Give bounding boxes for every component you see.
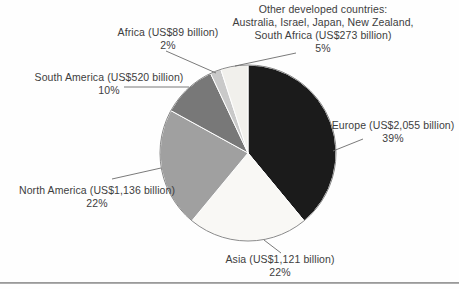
label-north-america: North America (US$1,136 billion) 22% (19, 184, 175, 210)
label-europe-pct: 39% (332, 132, 455, 145)
label-other-developed-line1: Other developed countries: (232, 3, 413, 16)
label-asia: Asia (US$1,121 billion) 22% (225, 253, 334, 279)
label-africa-text: Africa (US$89 billion) (118, 26, 219, 39)
leader-line-africa (166, 51, 216, 73)
label-other-developed-line3: South Africa (US$273 billion) (232, 29, 413, 42)
pie-chart-figure: Other developed countries: Australia, Is… (0, 0, 459, 289)
pie-slices (160, 65, 336, 241)
label-south-america-text: South America (US$520 billion) (35, 71, 184, 84)
label-africa: Africa (US$89 billion) 2% (118, 26, 219, 52)
label-north-america-text: North America (US$1,136 billion) (19, 184, 175, 197)
label-south-america-pct: 10% (35, 84, 184, 97)
label-europe: Europe (US$2,055 billion) 39% (332, 119, 455, 145)
leader-line-north-america (112, 168, 161, 179)
label-africa-pct: 2% (118, 39, 219, 52)
label-asia-pct: 22% (225, 266, 334, 279)
label-europe-text: Europe (US$2,055 billion) (332, 119, 455, 132)
label-south-america: South America (US$520 billion) 10% (35, 71, 184, 97)
leader-line-asia (264, 240, 281, 253)
label-other-developed-pct: 5% (232, 42, 413, 55)
label-other-developed-line2: Australia, Israel, Japan, New Zealand, (232, 16, 413, 29)
bottom-rule (0, 282, 459, 284)
label-north-america-pct: 22% (19, 197, 175, 210)
label-asia-text: Asia (US$1,121 billion) (225, 253, 334, 266)
label-other-developed: Other developed countries: Australia, Is… (232, 3, 413, 55)
